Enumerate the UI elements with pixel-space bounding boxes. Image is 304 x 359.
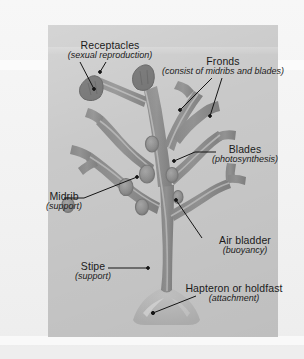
- label-receptacles-subtitle: (sexual reproduction): [58, 51, 162, 61]
- branch-right-lower-tip-out: [228, 175, 246, 185]
- receptacle-left: [80, 76, 104, 101]
- label-hapteron: Hapteron or holdfast (attachment): [170, 283, 298, 304]
- label-stipe: Stipe (support): [58, 261, 128, 282]
- air-bladder: [136, 199, 149, 215]
- branch-left-lower-fork-a: [70, 145, 92, 161]
- air-bladder: [146, 136, 159, 152]
- air-bladder: [119, 179, 133, 196]
- label-hapteron-subtitle: (attachment): [170, 294, 298, 304]
- label-fronds: Fronds (consist of midribs and blades): [152, 56, 294, 77]
- receptacle-group: [80, 65, 155, 101]
- air-bladder: [166, 168, 178, 183]
- paper-highlight-band-lower: [0, 336, 304, 345]
- label-fronds-subtitle: (consist of midribs and blades): [152, 67, 294, 77]
- label-receptacles: Receptacles (sexual reproduction): [58, 40, 162, 61]
- label-air-bladder: Air bladder (buoyancy): [196, 235, 294, 256]
- label-midrib: Midrib (support): [28, 191, 100, 212]
- paper-edge-band-bottom: [0, 347, 304, 359]
- air-bladder: [140, 165, 155, 183]
- air-bladder: [173, 191, 183, 204]
- label-blades-subtitle: (photosynthesis): [196, 155, 294, 165]
- label-midrib-subtitle: (support): [28, 202, 100, 212]
- label-blades: Blades (photosynthesis): [196, 144, 294, 165]
- label-stipe-subtitle: (support): [58, 272, 128, 282]
- label-air-bladder-subtitle: (buoyancy): [196, 246, 294, 256]
- figure-root: Receptacles (sexual reproduction) Fronds…: [0, 0, 304, 359]
